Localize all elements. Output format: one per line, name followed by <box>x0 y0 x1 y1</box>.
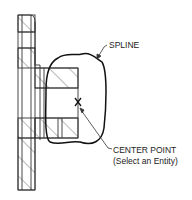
spline-leader <box>97 45 107 59</box>
section-drawing <box>0 0 192 200</box>
center-point-sublabel: (Select an Entity) <box>113 156 178 166</box>
spline-label: SPLINE <box>109 40 139 50</box>
center-point-label: CENTER POINT <box>113 145 176 155</box>
flange-part <box>18 15 40 190</box>
hub-part <box>35 65 78 140</box>
